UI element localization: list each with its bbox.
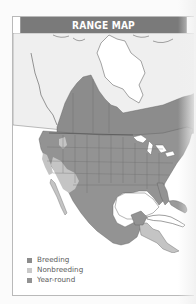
range-map-panel: RANGE MAP bbox=[12, 16, 194, 296]
legend-item-nonbreeding: Nonbreeding bbox=[27, 265, 83, 275]
legend-item-breeding: Breeding bbox=[27, 255, 83, 265]
central-america bbox=[139, 223, 179, 253]
legend-label: Nonbreeding bbox=[37, 265, 83, 275]
map-header: RANGE MAP bbox=[20, 17, 187, 33]
nonbreeding-swatch bbox=[27, 268, 32, 273]
year-round-swatch bbox=[27, 278, 32, 283]
legend-label: Breeding bbox=[37, 255, 69, 265]
map-title: RANGE MAP bbox=[72, 19, 135, 32]
bahamas bbox=[169, 201, 187, 214]
legend-item-year-round: Year-round bbox=[27, 275, 83, 285]
cuba bbox=[147, 215, 185, 227]
range-map bbox=[13, 33, 194, 253]
map-legend: Breeding Nonbreeding Year-round bbox=[27, 255, 83, 285]
breeding-swatch bbox=[27, 258, 32, 263]
legend-label: Year-round bbox=[37, 275, 75, 285]
